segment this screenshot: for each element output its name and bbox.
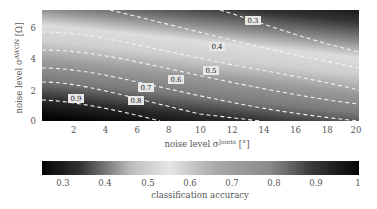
colorbar-tick: 1 [355,178,360,188]
x-tick: 16 [290,125,301,135]
x-tick: 6 [134,125,139,135]
heatmap-plot-area: 0.9 0.8 0.7 0.6 0.5 0.4 0.3 [42,10,359,121]
contour-label-0.5: 0.5 [205,67,216,75]
chart: 0.9 0.8 0.7 0.6 0.5 0.4 0.3 0 2 4 6 nois… [0,0,377,209]
x-tick: 4 [103,125,108,135]
colorbar-tick: 0.7 [225,178,239,188]
contour-label-0.9: 0.9 [70,95,81,103]
colorbar-tick: 0.5 [141,178,155,188]
colorbar-tick: 0.4 [98,178,112,188]
contour-label-0.4: 0.4 [211,43,223,51]
x-axis-label: noise level σJoints [°] [164,138,249,149]
contour-label-0.3: 0.3 [247,17,258,25]
x-tick: 10 [195,125,206,135]
y-axis-label: noise level σAWGN [Ω] [13,23,24,114]
x-axis: 2 4 6 8 10 12 14 16 18 20 noise level σJ… [71,125,361,149]
contour-label-0.8: 0.8 [130,97,141,105]
y-tick: 2 [31,86,36,96]
x-tick: 8 [166,125,171,135]
colorbar-label: classification accuracy [151,190,249,200]
contour-label-0.7: 0.7 [140,84,151,92]
colorbar-tick: 0.8 [267,178,281,188]
x-tick: 2 [71,125,76,135]
colorbar-tick: 0.3 [56,178,70,188]
contour-label-0.6: 0.6 [170,76,182,84]
x-tick: 18 [322,125,333,135]
x-tick: 20 [351,125,362,135]
x-tick: 12 [227,125,238,135]
y-tick: 0 [31,116,36,126]
x-tick: 14 [258,125,269,135]
y-tick: 4 [31,54,36,64]
colorbar-tick: 0.6 [183,178,197,188]
y-tick: 6 [31,23,36,33]
colorbar-gradient [42,161,359,175]
colorbar-tick: 0.9 [309,178,323,188]
y-axis: 0 2 4 6 noise level σAWGN [Ω] [13,23,36,126]
colorbar: 0.3 0.4 0.5 0.6 0.7 0.8 0.9 1 classifica… [42,161,361,200]
